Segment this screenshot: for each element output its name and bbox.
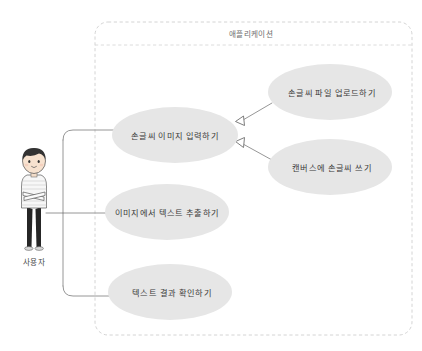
use-case-ellipses	[105, 64, 392, 320]
generalization-lines	[236, 103, 273, 160]
use-case-ellipse-extract-text-from-image[interactable]	[105, 184, 229, 240]
actor-right-cheek	[40, 164, 44, 166]
diagram-svg	[0, 0, 422, 351]
use-case-ellipse-write-handwriting-on-canvas[interactable]	[268, 139, 392, 195]
actor-left-shoe	[25, 247, 33, 251]
actor-right-leg	[36, 207, 42, 247]
actor-figure[interactable]	[22, 148, 47, 250]
generalization-canvas-write-line	[243, 144, 272, 160]
generalization-upload-file-line	[243, 103, 272, 120]
actor-left-leg	[27, 207, 33, 247]
actor-left-cheek	[25, 164, 29, 166]
generalization-upload-file-arrowhead	[236, 116, 245, 126]
actor-right-eye	[38, 160, 40, 163]
association-lines	[46, 130, 114, 296]
association-to-input-handwriting-image	[63, 130, 114, 140]
actor-label: 사용자	[23, 256, 45, 267]
actor-left-eye	[28, 160, 30, 163]
actor-right-shoe	[35, 247, 43, 251]
association-to-check-text-result	[63, 286, 110, 296]
use-case-ellipse-upload-handwriting-file[interactable]	[268, 64, 392, 120]
use-case-diagram-canvas: 애플리케이션 손글씨 이미지 입력하기 손글씨 파일 업로드하기 캔버스에 손글…	[0, 0, 422, 351]
use-case-ellipse-input-handwriting-image[interactable]	[112, 107, 238, 163]
use-case-ellipse-check-text-result[interactable]	[108, 264, 232, 320]
actor-sweater	[22, 175, 47, 208]
boundary-title: 애플리케이션	[229, 28, 273, 39]
